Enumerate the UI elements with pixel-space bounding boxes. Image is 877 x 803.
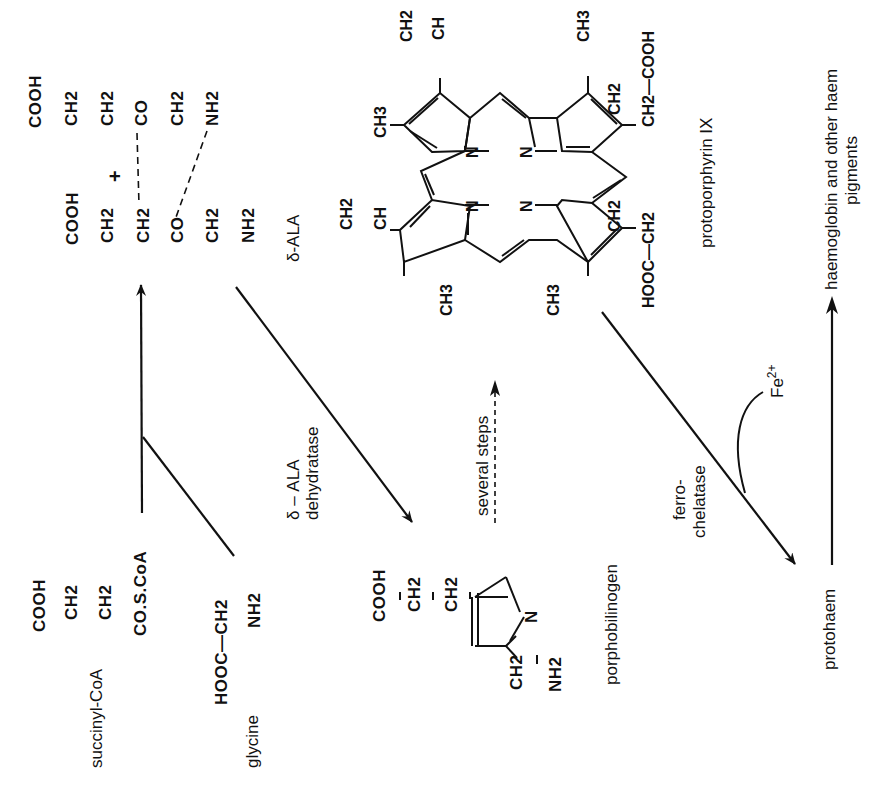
pp-n-4: N: [518, 200, 536, 212]
fe-cofactor: Fe2+: [765, 364, 788, 398]
dehydratase-label-2: dehydratase: [303, 426, 323, 520]
succinyl-coa-coscoa: CO.S.CoA: [131, 551, 151, 636]
ala-a-ch2-2: CH2: [98, 90, 118, 126]
pp-vinyl-top-ch: CH: [430, 17, 448, 40]
fe-symbol: Fe: [768, 378, 787, 398]
haem-pigment-arrow: [826, 296, 838, 565]
ala-b-cooh: COOH: [63, 192, 83, 245]
haemoglobin-label-1: haemoglobin and other haem: [822, 69, 842, 290]
glycine-nh2: NH2: [245, 592, 265, 628]
pp-methyl-3: CH3: [438, 284, 456, 316]
delta-ala-label: δ-ALA: [284, 215, 304, 262]
ferrochelatase-label-1: ferro-: [670, 479, 690, 520]
haemoglobin-label-2: pigments: [842, 136, 862, 205]
pbg-ch2-1: CH2: [405, 576, 425, 612]
ala-a-ch2-1: CH2: [62, 90, 82, 126]
pp-methyl-2: CH3: [575, 10, 593, 42]
ala-a-co: CO: [132, 100, 152, 127]
pp-n-1: N: [464, 146, 482, 158]
glycine-formula: HOOC—CH2: [212, 599, 232, 705]
pp-propionate-bottom-hoocch2: HOOC—CH2: [640, 212, 658, 308]
ala-a-nh2: NH2: [203, 90, 223, 126]
ala-synthase-arrow: [141, 285, 234, 556]
pp-propionate-right-ch2: CH2: [606, 83, 624, 115]
pp-propionate-right-ch2cooh: CH2—COOH: [640, 31, 658, 127]
succinyl-coa-label: succinyl-CoA: [87, 669, 107, 768]
pbg-cooh: COOH: [370, 569, 390, 622]
ala-a-cooh: COOH: [26, 75, 46, 128]
pp-vinyl-top-ch2: CH2: [398, 10, 416, 42]
porphobilinogen-label: porphobilinogen: [602, 564, 622, 685]
pp-methyl-4: CH3: [545, 284, 563, 316]
porphyrin-macrocycle: [390, 76, 636, 276]
ala-b-nh2: NH2: [239, 207, 259, 243]
several-steps-label: several steps: [473, 416, 493, 516]
pp-n-2: N: [518, 146, 536, 158]
pbg-ch2-2: CH2: [442, 576, 462, 612]
pp-propionate-bottom-ch2: CH2: [606, 200, 624, 232]
fe-charge: 2+: [765, 364, 779, 378]
dehydratase-label-1: δ – ALA: [284, 460, 304, 521]
protohaem-label: protohaem: [820, 589, 840, 670]
ala-b-co: CO: [168, 217, 188, 244]
ala-b-ch2-3: CH2: [203, 207, 223, 243]
protoporphyrin-label: protoporphyrin IX: [697, 118, 717, 248]
glycine-label: glycine: [243, 715, 263, 768]
ala-plus: +: [104, 170, 127, 182]
dehydratase-arrow: [236, 287, 412, 522]
ferrochelatase-label-2: chelatase: [690, 465, 710, 538]
ala-b-ch2-2: CH2: [134, 207, 154, 243]
pp-vinyl-left-ch: CH: [372, 207, 390, 230]
ala-b-ch2-1: CH2: [98, 207, 118, 243]
pp-n-3: N: [464, 200, 482, 212]
succinyl-coa-cooh: COOH: [30, 579, 50, 632]
succinyl-coa-ch2-2: CH2: [96, 584, 116, 620]
pbg-ch2-3: CH2: [507, 654, 527, 690]
ala-a-ch2-3: CH2: [168, 90, 188, 126]
pp-methyl-1: CH3: [372, 106, 390, 138]
pp-vinyl-left-ch2: CH2: [338, 198, 356, 230]
succinyl-coa-ch2-1: CH2: [62, 584, 82, 620]
pbg-nh2: NH2: [546, 656, 566, 692]
pbg-n: N: [522, 610, 542, 623]
